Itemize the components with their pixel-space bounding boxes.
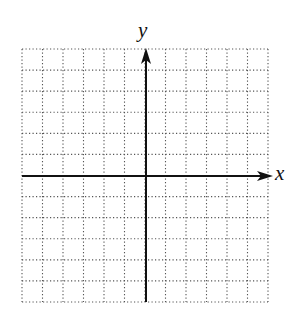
y-axis-label: y (138, 20, 147, 41)
axes (22, 48, 273, 302)
x-axis-label: x (275, 163, 284, 184)
coordinate-plane (0, 0, 295, 316)
